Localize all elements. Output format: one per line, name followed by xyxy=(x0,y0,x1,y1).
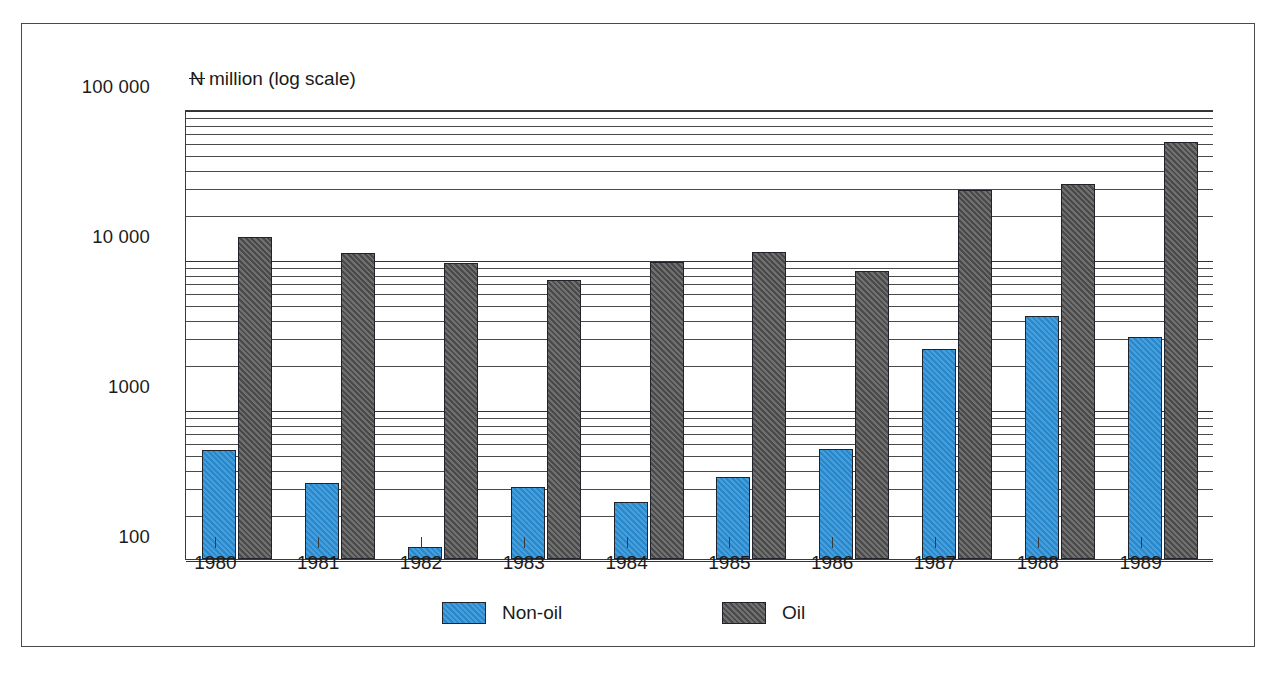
bar-group xyxy=(1008,111,1111,559)
bar-group xyxy=(494,111,597,559)
legend-swatch-oil xyxy=(722,602,766,624)
bar-non-oil-1981[interactable] xyxy=(305,483,339,559)
plot-area xyxy=(185,110,1213,560)
x-axis-tick-label-1983: 1983 xyxy=(479,552,569,574)
bar-oil-1983[interactable] xyxy=(547,280,581,559)
bar-oil-1987[interactable] xyxy=(958,190,992,559)
x-axis-tick-label-1985: 1985 xyxy=(684,552,774,574)
x-axis-tick-label-1984: 1984 xyxy=(582,552,672,574)
bar-non-oil-1984[interactable] xyxy=(614,502,648,559)
y-axis-tick-label: 100 000 xyxy=(22,76,150,98)
bar-group xyxy=(597,111,700,559)
bar-group xyxy=(392,111,495,559)
bar-oil-1984[interactable] xyxy=(650,262,684,559)
y-axis-label-text: million (log scale) xyxy=(204,68,356,89)
bar-non-oil-1989[interactable] xyxy=(1128,337,1162,559)
y-axis-label: N million (log scale) xyxy=(190,68,356,90)
bar-oil-1986[interactable] xyxy=(855,271,889,559)
chart-legend: Non-oilOil xyxy=(22,602,1256,642)
figure-canvas: N million (log scale) 100 00010 00010001… xyxy=(0,0,1277,678)
bar-group xyxy=(186,111,289,559)
x-axis-tick-label-1982: 1982 xyxy=(376,552,466,574)
y-axis-tick-label: 10 000 xyxy=(22,226,150,248)
x-axis-tick-label-1988: 1988 xyxy=(993,552,1083,574)
bar-non-oil-1986[interactable] xyxy=(819,449,853,559)
bar-oil-1980[interactable] xyxy=(238,237,272,559)
bar-oil-1982[interactable] xyxy=(444,263,478,559)
x-axis-tick xyxy=(832,537,833,548)
bar-non-oil-1988[interactable] xyxy=(1025,316,1059,559)
x-axis-tick xyxy=(627,537,628,548)
x-axis-tick xyxy=(1141,537,1142,548)
chart-frame: N million (log scale) 100 00010 00010001… xyxy=(21,23,1255,647)
x-axis-tick xyxy=(1038,537,1039,548)
x-axis-tick xyxy=(215,537,216,548)
bar-non-oil-1983[interactable] xyxy=(511,487,545,559)
bar-oil-1981[interactable] xyxy=(341,253,375,559)
bar-group xyxy=(1111,111,1214,559)
x-axis-tick-label-1981: 1981 xyxy=(273,552,363,574)
legend-label: Non-oil xyxy=(502,602,562,624)
x-axis-tick xyxy=(421,537,422,548)
bar-group xyxy=(906,111,1009,559)
x-axis-tick xyxy=(935,537,936,548)
bar-non-oil-1987[interactable] xyxy=(922,349,956,559)
legend-label: Oil xyxy=(782,602,805,624)
x-axis-tick-label-1980: 1980 xyxy=(170,552,260,574)
bar-group xyxy=(700,111,803,559)
legend-item-oil[interactable]: Oil xyxy=(722,602,805,624)
bar-non-oil-1985[interactable] xyxy=(716,477,750,559)
x-axis-tick xyxy=(318,537,319,548)
y-axis-tick-label: 100 xyxy=(22,526,150,548)
x-axis-tick xyxy=(729,537,730,548)
legend-item-non-oil[interactable]: Non-oil xyxy=(442,602,562,624)
x-axis-tick-label-1986: 1986 xyxy=(787,552,877,574)
naira-currency-symbol: N xyxy=(190,68,204,90)
bar-oil-1989[interactable] xyxy=(1164,142,1198,559)
bar-oil-1985[interactable] xyxy=(752,252,786,559)
bar-group xyxy=(289,111,392,559)
bar-non-oil-1980[interactable] xyxy=(202,450,236,559)
bar-oil-1988[interactable] xyxy=(1061,184,1095,559)
x-axis-tick xyxy=(524,537,525,548)
legend-swatch-nonoil xyxy=(442,602,486,624)
y-axis-tick-label: 1000 xyxy=(22,376,150,398)
bar-group xyxy=(803,111,906,559)
x-axis-tick-label-1987: 1987 xyxy=(890,552,980,574)
x-axis-tick-label-1989: 1989 xyxy=(1096,552,1186,574)
